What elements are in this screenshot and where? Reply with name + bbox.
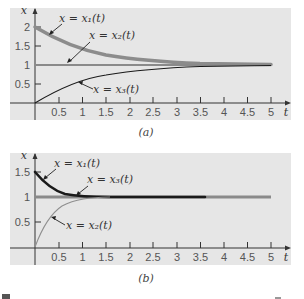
panel-a-caption: (a): [138, 126, 153, 139]
panel-a-y-tick-label: 1: [24, 59, 30, 71]
panel-a-y-axis-label: x: [21, 4, 28, 17]
svg-text:1: 1: [79, 251, 85, 263]
panel-b-y-tick-label: 0.5: [15, 216, 30, 228]
svg-text:5: 5: [268, 106, 274, 118]
panel-a-y-tick-label: 1.5: [15, 40, 30, 52]
svg-text:2: 2: [127, 106, 133, 118]
panel-a-label-x2: x = x₂(t): [89, 29, 135, 42]
svg-text:0.5: 0.5: [51, 251, 66, 263]
panel-a-x-axis-label: t: [284, 106, 289, 119]
panel-b: 0.5 1 1.5 x 0.5 1 1.5 2 2.5 3 3.5 4 4.5 …: [10, 149, 291, 285]
svg-text:3: 3: [174, 106, 180, 118]
panel-b-y-tick-label: 1: [24, 191, 30, 203]
svg-text:4: 4: [221, 106, 227, 118]
panel-b-y-axis-label: x: [21, 149, 28, 162]
svg-text:3.5: 3.5: [193, 106, 208, 118]
svg-text:2.5: 2.5: [145, 251, 160, 263]
panel-a-y-tick-label: 2: [24, 21, 30, 33]
svg-text:3: 3: [174, 251, 180, 263]
svg-text:4.5: 4.5: [240, 106, 255, 118]
panel-a-label-x3: x = x₃(t): [93, 83, 139, 96]
panel-b-label-x3: x = x₃(t): [87, 173, 133, 186]
svg-text:3.5: 3.5: [193, 251, 208, 263]
svg-text:4.5: 4.5: [240, 251, 255, 263]
svg-text:2.5: 2.5: [145, 106, 160, 118]
panel-a-label-x1: x = x₁(t): [59, 12, 105, 25]
svg-text:1.5: 1.5: [98, 106, 113, 118]
panel-b-x-axis-label: t: [284, 251, 289, 264]
svg-text:4: 4: [221, 251, 227, 263]
panel-b-y-tick-label: 1.5: [15, 166, 30, 178]
svg-text:5: 5: [268, 251, 274, 263]
svg-text:1.5: 1.5: [98, 251, 113, 263]
figure: 0.5 1 1.5 2 x 0.5 1 1.5 2 2.5 3 3.5 4 4.…: [0, 0, 304, 299]
panel-a: 0.5 1 1.5 2 x 0.5 1 1.5 2 2.5 3 3.5 4 4.…: [10, 4, 291, 139]
page-corner-mark: [2, 294, 10, 299]
panel-b-label-x2: x = x₂(t): [66, 219, 112, 232]
svg-text:1: 1: [79, 106, 85, 118]
svg-text:2: 2: [127, 251, 133, 263]
svg-text:0.5: 0.5: [51, 106, 66, 118]
panel-a-y-tick-label: 0.5: [15, 78, 30, 90]
panel-b-label-x1: x = x₁(t): [54, 157, 100, 170]
panel-b-caption: (b): [138, 272, 154, 285]
